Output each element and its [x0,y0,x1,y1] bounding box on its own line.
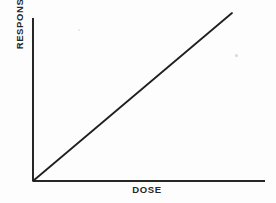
y-axis-label: RESPONSE [0,0,42,203]
x-axis-label: DOSE [0,184,276,195]
dose-response-chart: RESPONSE DOSE [0,0,276,203]
y-axis-label-text: RESPONSE [15,0,26,49]
data-series-line [33,13,232,181]
